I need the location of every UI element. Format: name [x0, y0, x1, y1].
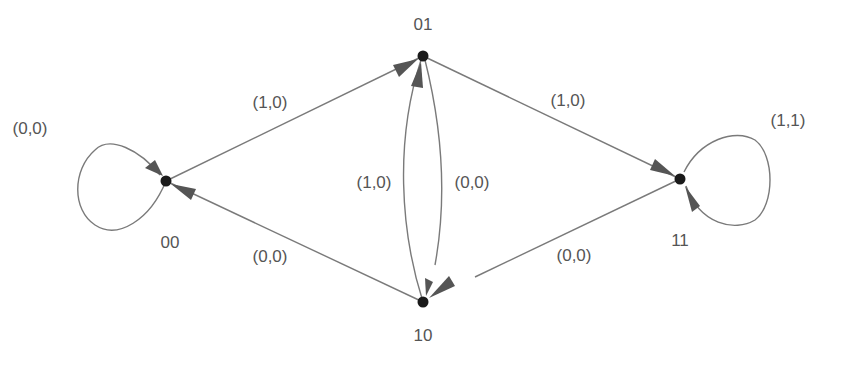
- edge-00-to-00: [78, 144, 166, 230]
- edge-01-to-11: [423, 56, 680, 179]
- arrowhead-icon: [425, 278, 433, 296]
- node-11: [675, 174, 686, 185]
- edge-label-10-00: (0,0): [253, 247, 288, 266]
- edge-11-to-11: [684, 135, 770, 225]
- edge-label-00-00: (0,0): [13, 119, 48, 138]
- edge-label-01-11: (1,0): [551, 91, 586, 110]
- edge-label-10-01: (1,0): [357, 173, 392, 192]
- edge-label-01-10: (0,0): [455, 173, 490, 192]
- node-label-11: 11: [671, 231, 689, 250]
- arrowhead-icon: [429, 276, 455, 298]
- state-diagram: 00 01 11 10 (0,0) (1,0) (1,0) (1,1) (1,0…: [0, 0, 844, 367]
- node-label-00: 00: [161, 233, 180, 252]
- edge-01-to-10: [425, 60, 442, 296]
- node-01: [418, 51, 429, 62]
- edge-00-to-01: [166, 56, 423, 181]
- edge-11-to-10: [429, 179, 680, 298]
- arrowhead-icon: [411, 62, 423, 88]
- node-10: [418, 297, 429, 308]
- node-00: [161, 176, 172, 187]
- node-label-10: 10: [414, 326, 433, 345]
- edge-10-to-00: [166, 181, 423, 302]
- edge-10-to-01: [404, 60, 423, 302]
- edge-label-11-11: (1,1): [771, 111, 806, 130]
- arrowhead-icon: [171, 184, 196, 200]
- node-label-01: 01: [414, 15, 433, 34]
- edge-label-11-10: (0,0): [557, 246, 592, 265]
- arrowhead-icon: [393, 59, 418, 77]
- edge-label-00-01: (1,0): [253, 93, 288, 112]
- arrowhead-icon: [650, 159, 675, 176]
